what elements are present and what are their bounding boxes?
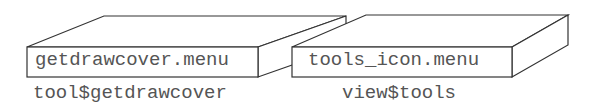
box-face-label-tools-icon: tools_icon.menu [308,49,479,71]
box-caption-tools: view$tools [342,82,456,104]
box-caption-getdrawcover: tool$getdrawcover [33,82,227,104]
box-face-label-getdrawcover: getdrawcover.menu [35,49,229,71]
